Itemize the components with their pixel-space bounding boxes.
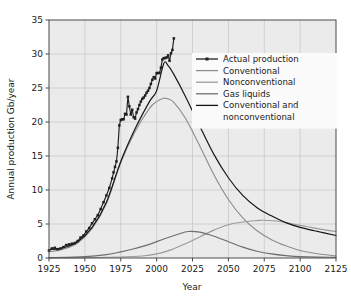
chart-legend: Actual productionConventionalNonconventi… [192, 53, 338, 129]
data-point-marker [173, 37, 176, 40]
x-tick-label: 1925 [38, 264, 61, 274]
x-tick-label: 2075 [253, 264, 276, 274]
legend-label: Conventional and [223, 100, 299, 110]
data-point-marker [68, 243, 71, 246]
data-point-marker [150, 83, 153, 86]
y-tick-label: 0 [37, 253, 43, 263]
data-point-marker [147, 89, 150, 92]
data-point-marker [130, 113, 133, 116]
data-point-marker [168, 60, 171, 63]
x-tick-label: 2050 [217, 264, 240, 274]
data-point-marker [88, 227, 91, 230]
x-tick-label: 2125 [325, 264, 348, 274]
data-point-marker [114, 166, 117, 169]
x-tick-label: 1975 [109, 264, 132, 274]
data-point-marker [118, 124, 121, 127]
data-point-marker [82, 234, 85, 237]
data-point-marker [171, 49, 174, 52]
data-point-marker [71, 242, 74, 245]
data-point-marker [117, 147, 120, 150]
data-point-marker [99, 208, 102, 211]
x-tick-label: 1950 [73, 264, 96, 274]
y-tick-label: 15 [32, 151, 43, 161]
x-tick-label: 2100 [289, 264, 312, 274]
data-point-marker [138, 104, 141, 107]
legend-label: Gas liquids [223, 89, 271, 99]
data-point-marker [115, 160, 118, 163]
data-point-marker [158, 72, 161, 75]
legend-label: Actual production [223, 54, 299, 64]
data-point-marker [134, 117, 137, 120]
data-point-marker [144, 94, 147, 97]
y-tick-label: 10 [32, 185, 44, 195]
y-axis-label: Annual production Gb/year [6, 78, 16, 199]
y-tick-label: 35 [32, 15, 43, 25]
data-point-marker [85, 230, 88, 233]
legend-label-continued: nonconventional [223, 112, 295, 122]
data-point-marker [105, 194, 108, 197]
data-point-marker [151, 79, 154, 82]
legend-marker [206, 58, 209, 61]
data-point-marker [79, 236, 82, 239]
x-tick-label: 2025 [181, 264, 204, 274]
data-point-marker [51, 247, 54, 250]
y-tick-label: 25 [32, 83, 43, 93]
data-point-marker [94, 218, 97, 221]
x-tick-label: 2000 [145, 264, 168, 274]
data-point-marker [125, 113, 128, 116]
data-point-marker [122, 118, 125, 121]
data-point-marker [53, 247, 56, 250]
y-tick-label: 20 [32, 117, 44, 127]
data-point-marker [127, 96, 129, 99]
chart-figure: 192519501975200020252050207521002125 051… [0, 0, 351, 299]
legend-label: Conventional [223, 66, 280, 76]
data-point-marker [65, 244, 68, 247]
data-point-marker [62, 246, 65, 249]
data-point-marker [148, 87, 151, 90]
legend-label: Nonconventional [223, 77, 296, 87]
data-point-marker [128, 105, 131, 108]
data-point-marker [135, 111, 138, 114]
data-point-marker [140, 100, 143, 103]
data-point-marker [97, 214, 100, 217]
x-axis-label: Year [181, 282, 201, 292]
data-point-marker [108, 187, 111, 190]
oil-production-chart: 192519501975200020252050207521002125 051… [0, 0, 351, 299]
data-point-marker [160, 66, 163, 69]
data-point-marker [76, 240, 79, 243]
y-tick-label: 5 [37, 219, 43, 229]
data-point-marker [112, 171, 115, 174]
y-tick-label: 30 [32, 49, 44, 59]
data-point-marker [56, 248, 59, 251]
data-point-marker [111, 177, 114, 180]
data-point-marker [137, 108, 140, 111]
data-point-marker [102, 201, 105, 204]
data-point-marker [91, 222, 94, 225]
data-point-marker [74, 242, 77, 245]
data-point-marker [170, 52, 173, 55]
data-point-marker [131, 109, 134, 112]
data-point-marker [167, 54, 170, 57]
data-point-marker [154, 77, 157, 80]
data-point-marker [59, 247, 62, 250]
